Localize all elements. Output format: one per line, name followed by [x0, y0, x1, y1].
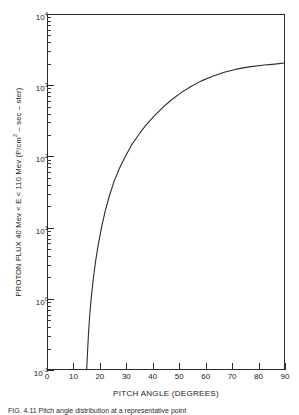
- y-axis-minor-tick: [47, 306, 51, 307]
- y-axis-minor-tick: [47, 21, 51, 22]
- x-axis-tick: [259, 363, 260, 370]
- y-axis-minor-tick: [47, 122, 51, 123]
- y-axis-minor-tick: [47, 302, 51, 303]
- y-tick-exponent: 4: [45, 11, 48, 17]
- y-tick-mantissa: 10: [36, 13, 45, 22]
- y-axis-minor-tick: [47, 231, 51, 232]
- y-axis-minor-tick: [47, 160, 51, 161]
- y-tick-mantissa: 10: [36, 226, 45, 235]
- y-axis-minor-tick: [47, 30, 51, 31]
- figure-caption: FIG. 4.11 Pitch angle distribution at a …: [8, 406, 293, 415]
- y-axis-minor-tick: [47, 163, 51, 164]
- y-axis-minor-tick: [47, 249, 51, 250]
- y-axis-minor-tick: [47, 185, 51, 186]
- x-axis-tick: [232, 363, 233, 370]
- y-axis-tick-label: 101: [36, 224, 48, 236]
- y-axis-minor-tick: [47, 17, 51, 18]
- x-axis-tick-label: 80: [249, 372, 269, 381]
- y-axis-minor-tick: [47, 243, 51, 244]
- y-axis-major-tick: [47, 228, 54, 229]
- y-axis-title-post: – sec – ster): [14, 88, 23, 134]
- x-axis-tick-label: 70: [222, 372, 242, 381]
- x-axis-tick: [47, 363, 48, 370]
- y-axis-minor-tick: [47, 277, 51, 278]
- x-axis-tick-label: 50: [169, 372, 189, 381]
- y-axis-major-tick: [47, 370, 54, 371]
- y-axis-minor-tick: [47, 88, 51, 89]
- y-axis-minor-tick: [47, 135, 51, 136]
- y-axis-title-exponent: 2: [12, 134, 18, 137]
- y-axis-minor-tick: [47, 310, 51, 311]
- x-axis-title: PITCH ANGLE (DEGREES): [47, 389, 285, 398]
- y-tick-mantissa: 10: [36, 155, 45, 164]
- y-axis-minor-tick: [47, 172, 51, 173]
- x-axis-tick: [285, 363, 286, 370]
- y-axis-minor-tick: [47, 25, 51, 26]
- y-axis-major-tick: [47, 299, 54, 300]
- y-axis-minor-tick: [47, 320, 51, 321]
- y-tick-exponent: 3: [45, 82, 48, 88]
- y-axis-minor-tick: [47, 96, 51, 97]
- x-axis-tick-label: 90: [275, 372, 295, 381]
- y-axis-minor-tick: [47, 315, 51, 316]
- y-tick-exponent: 2: [45, 153, 48, 159]
- y-axis-title: PROTON FLUX 40 Mev < E < 110 Mev (P/cm2 …: [8, 14, 22, 370]
- y-axis-minor-tick: [47, 64, 51, 65]
- x-axis-tick: [179, 363, 180, 370]
- y-axis-minor-tick: [47, 51, 51, 52]
- y-axis-tick-label: 103: [36, 81, 48, 93]
- y-axis-minor-tick: [47, 35, 51, 36]
- y-tick-exponent: 1: [45, 225, 48, 231]
- y-axis-major-tick: [47, 156, 54, 157]
- y-axis-minor-tick: [47, 92, 51, 93]
- y-tick-mantissa: 10: [36, 297, 45, 306]
- y-axis-minor-tick: [47, 178, 51, 179]
- x-axis-tick: [206, 363, 207, 370]
- y-axis-minor-tick: [47, 194, 51, 195]
- y-axis-minor-tick: [47, 349, 51, 350]
- y-axis-minor-tick: [47, 114, 51, 115]
- curve-path: [87, 63, 285, 370]
- y-axis-minor-tick: [47, 107, 51, 108]
- x-axis-tick-label: 10: [63, 372, 83, 381]
- y-axis-minor-tick: [47, 265, 51, 266]
- x-axis-tick: [153, 363, 154, 370]
- y-axis-major-tick: [47, 85, 54, 86]
- y-axis-tick-label: 102: [36, 152, 48, 164]
- y-axis-minor-tick: [47, 235, 51, 236]
- y-axis-minor-tick: [47, 167, 51, 168]
- y-tick-mantissa: 10: [36, 84, 45, 93]
- x-axis-tick-label: 40: [143, 372, 163, 381]
- y-axis-major-tick: [47, 14, 54, 15]
- y-axis-minor-tick: [47, 239, 51, 240]
- data-curve: [47, 14, 285, 370]
- y-axis-minor-tick: [47, 42, 51, 43]
- y-axis-minor-tick: [47, 327, 51, 328]
- figure-container: 10410310210110010-1 0102030405060708090 …: [0, 0, 299, 415]
- y-axis-minor-tick: [47, 101, 51, 102]
- x-axis-tick: [126, 363, 127, 370]
- y-axis-minor-tick: [47, 206, 51, 207]
- y-axis-minor-tick: [47, 256, 51, 257]
- x-axis-tick-label: 0: [37, 372, 57, 381]
- x-axis-tick-label: 60: [196, 372, 216, 381]
- y-axis-title-pre: PROTON FLUX 40 Mev < E < 110 Mev (P/cm: [14, 137, 23, 296]
- y-axis-minor-tick: [47, 336, 51, 337]
- x-axis-tick: [73, 363, 74, 370]
- x-axis-tick-label: 20: [90, 372, 110, 381]
- x-axis-tick: [100, 363, 101, 370]
- y-tick-exponent: 0: [45, 296, 48, 302]
- x-axis-tick-label: 30: [116, 372, 136, 381]
